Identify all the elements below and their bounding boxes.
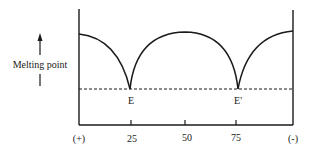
phase-diagram: Melting point E E' (+) 25 50 75 (-) — [0, 0, 311, 152]
y-axis-label: Melting point — [13, 59, 68, 70]
tick-label-50: 50 — [182, 132, 192, 143]
tick-label-25: 25 — [127, 133, 137, 144]
right-liquidus-curve — [238, 31, 293, 89]
tick-label-75: 75 — [231, 132, 241, 143]
tick-label-minus: (-) — [288, 133, 298, 145]
tick-label-plus: (+) — [73, 133, 85, 145]
middle-liquidus-curve — [130, 32, 238, 89]
eutectic-label-e-prime: E' — [234, 95, 242, 106]
left-liquidus-curve — [79, 34, 130, 89]
eutectic-label-e: E — [128, 95, 134, 106]
chart-canvas: Melting point E E' (+) 25 50 75 (-) — [0, 0, 311, 152]
arrow-up-icon — [38, 33, 43, 41]
